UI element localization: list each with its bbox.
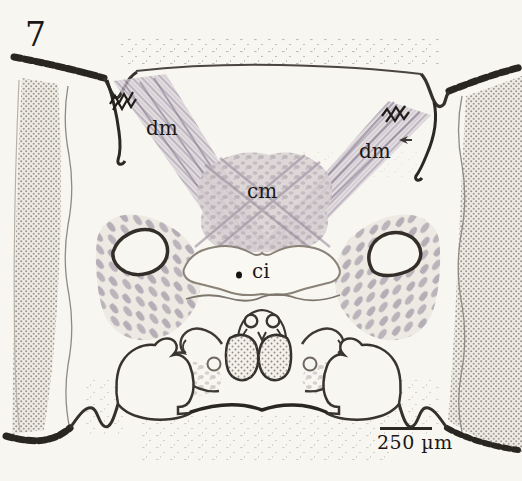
labrum-base-line [191, 405, 326, 412]
figure-number: 7 [25, 18, 46, 51]
label-cm: cm [247, 181, 277, 201]
cibarium-dot [236, 271, 242, 278]
micrograph-figure: 7 dm dm cm ci 250 µm [0, 0, 522, 481]
mouthpart-lobe-right [323, 338, 400, 419]
tentorium-right [369, 233, 421, 276]
label-dm-right: dm [359, 141, 391, 161]
scale-bar-line [380, 427, 432, 430]
label-ci: ci [252, 261, 270, 281]
head-capsule-cuticle [14, 57, 449, 106]
label-dm-left: dm [146, 118, 178, 138]
micrograph-canvas [0, 0, 522, 481]
scale-bar-label: 250 µm [377, 433, 453, 452]
hypopharynx-line [186, 294, 340, 301]
